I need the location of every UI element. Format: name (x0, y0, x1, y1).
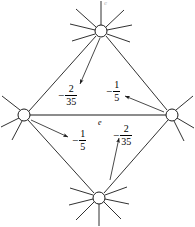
half-edge (76, 202, 94, 220)
numerator: 2 (68, 84, 75, 95)
minus-sign: − (113, 130, 119, 141)
denominator: 35 (65, 95, 77, 108)
fraction-lower-right: − 2 35 (113, 124, 132, 147)
minus-sign: − (106, 86, 112, 97)
denominator: 5 (113, 91, 120, 104)
edge-group (28, 36, 168, 193)
label-upper-left: − 2 35 (58, 84, 77, 107)
label-lower-right: − 2 35 (113, 124, 132, 147)
edge-label-e: e (98, 119, 102, 127)
denominator: 35 (120, 135, 132, 148)
half-edge (104, 202, 121, 219)
half-edge (70, 188, 93, 195)
minus-sign: − (72, 135, 78, 146)
half-edge (12, 121, 22, 140)
half-edge (72, 34, 95, 41)
arrow-to-upper-right-label (125, 96, 164, 112)
vertex-left[interactable] (18, 109, 30, 121)
half-edge (106, 10, 124, 27)
numerator: 2 (123, 124, 130, 135)
numerator: 1 (79, 129, 86, 140)
top-faint-mark: e (104, 0, 107, 7)
fraction-stack: 1 5 (113, 80, 120, 103)
fraction-stack: 2 35 (120, 124, 132, 147)
arrow-to-upper-left-label (80, 38, 100, 84)
half-edge (70, 24, 95, 30)
vertex-right[interactable] (166, 109, 178, 121)
denominator: 5 (79, 140, 86, 153)
annotation-arrow-group (31, 38, 164, 180)
minus-sign: − (58, 90, 64, 101)
arrow-to-lower-left-label (31, 120, 68, 137)
half-edge (107, 25, 132, 30)
graph-canvas (0, 0, 195, 227)
fraction-lower-left: − 1 5 (72, 129, 86, 152)
label-lower-left: − 1 5 (72, 129, 86, 152)
fraction-stack: 1 5 (79, 129, 86, 152)
vertex-top[interactable] (95, 25, 107, 37)
half-edge (2, 96, 20, 110)
fraction-upper-right: − 1 5 (106, 80, 120, 103)
fraction-stack: 2 35 (65, 84, 77, 107)
half-edge (174, 121, 184, 141)
fraction-upper-left: − 2 35 (58, 84, 77, 107)
half-edge (176, 96, 193, 110)
graph-figure: e − 2 35 − 1 5 − 1 5 (0, 0, 195, 227)
vertex-bottom[interactable] (93, 192, 105, 204)
half-edge (1, 118, 19, 127)
half-edge (76, 9, 96, 27)
numerator: 1 (113, 80, 120, 91)
label-upper-right: − 1 5 (106, 80, 120, 103)
half-edge (69, 199, 93, 205)
half-edge (177, 118, 194, 128)
half-edge (105, 199, 129, 204)
